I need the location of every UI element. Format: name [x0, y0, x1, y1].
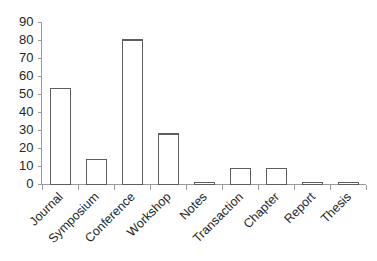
y-tick-label: 70	[19, 50, 33, 65]
x-tick-label-notes: Notes	[177, 190, 210, 223]
bar-chapter	[267, 168, 287, 184]
x-axis: JournalSymposiumConferenceWorkshopNotesT…	[27, 185, 367, 246]
bars-group	[51, 40, 359, 184]
y-tick-label: 50	[19, 86, 33, 101]
x-tick-label-chapter: Chapter	[241, 190, 282, 231]
y-tick-label: 0	[26, 176, 33, 191]
y-tick-labels: 0102030405060708090	[19, 14, 33, 192]
bar-transaction	[231, 168, 251, 184]
y-tick-label: 40	[19, 104, 33, 119]
bar-journal	[51, 89, 71, 185]
bar-chart: 0102030405060708090 JournalSymposiumConf…	[0, 0, 377, 261]
y-tick-marks	[38, 22, 42, 185]
y-axis: 0102030405060708090	[19, 14, 41, 192]
bar-workshop	[159, 134, 179, 185]
x-tick-label-thesis: Thesis	[318, 190, 354, 226]
y-tick-label: 30	[19, 122, 33, 137]
x-tick-label-report: Report	[282, 189, 319, 226]
y-tick-label: 90	[19, 14, 33, 29]
chart-canvas: 0102030405060708090 JournalSymposiumConf…	[0, 0, 377, 261]
bar-report	[303, 183, 323, 185]
bar-conference	[123, 40, 143, 184]
bar-notes	[195, 183, 215, 185]
x-tick-labels: JournalSymposiumConferenceWorkshopNotesT…	[27, 189, 354, 245]
y-tick-label: 10	[19, 158, 33, 173]
x-tick-marks	[43, 185, 367, 190]
bar-symposium	[87, 159, 107, 184]
y-tick-label: 20	[19, 140, 33, 155]
y-tick-label: 60	[19, 68, 33, 83]
bar-thesis	[339, 183, 359, 185]
y-tick-label: 80	[19, 32, 33, 47]
